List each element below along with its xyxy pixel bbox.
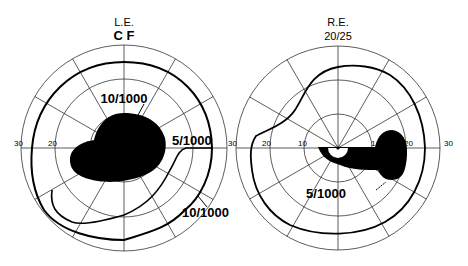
right-tick-right-30: 30 xyxy=(444,139,453,148)
left-tick-10: 1 xyxy=(86,139,91,148)
visual-field-diagram: L.E. C F 10/1000 5/1000 10/1000 30 20 1 … xyxy=(0,0,468,266)
left-tick-20: 20 xyxy=(48,139,57,148)
left-tick-30: 30 xyxy=(14,139,23,148)
left-eye-label: L.E. xyxy=(114,16,134,28)
fixation-point xyxy=(336,146,339,149)
left-acuity-label: C F xyxy=(114,28,135,43)
right-acuity-label: 20/25 xyxy=(324,30,352,42)
left-outer-isopter-label: 10/1000 xyxy=(182,205,229,220)
left-middle-isopter-label: 5/1000 xyxy=(172,133,212,148)
left-inner-isopter-label: 10/1000 xyxy=(101,91,148,106)
right-tick-left-10: 10 xyxy=(298,139,307,148)
left-eye-field: L.E. C F 10/1000 5/1000 10/1000 30 20 1 … xyxy=(14,16,237,251)
right-tick-left-20: 20 xyxy=(262,139,271,148)
right-eye-field: R.E. 20/25 5/1000 20 10 1 20 30 xyxy=(236,16,453,250)
right-tick-right-10: 1 xyxy=(371,139,376,148)
right-eye-label: R.E. xyxy=(327,16,348,28)
right-scotoma-label: 5/1000 xyxy=(306,186,346,201)
right-tick-right-20: 20 xyxy=(404,139,413,148)
right-scotoma-arrow xyxy=(376,182,386,190)
left-scotoma xyxy=(70,113,166,182)
